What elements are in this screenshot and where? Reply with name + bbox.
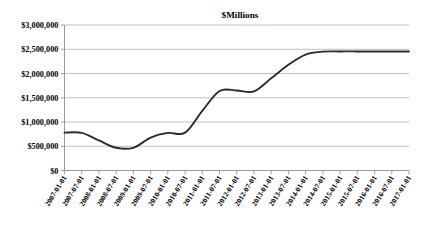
x-axis-tick-labels: 2007-01-012007-07-012008-01-012008-07-01… (43, 174, 414, 208)
chart-title: $Millions (222, 10, 259, 20)
y-axis-tick-label: $2,000,000 (21, 70, 58, 79)
y-axis-tick-label: $2,500,000 (21, 45, 58, 54)
gridlines (61, 25, 409, 171)
data-series-line (65, 51, 410, 148)
x-axis-tick-marks (65, 171, 410, 175)
y-axis-tick-labels: $0$500,000$1,000,000$1,500,000$2,000,000… (21, 21, 58, 176)
y-axis-tick-label: $3,000,000 (21, 21, 58, 30)
line-chart: $Millions $0$500,000$1,000,000$1,500,000… (0, 0, 443, 227)
chart-container: $Millions $0$500,000$1,000,000$1,500,000… (0, 0, 443, 227)
y-axis-tick-label: $500,000 (27, 142, 58, 151)
chart-title-group: $Millions (222, 10, 259, 20)
y-axis-tick-label: $1,000,000 (21, 118, 58, 127)
y-axis-tick-label: $0 (50, 167, 58, 176)
y-axis-tick-label: $1,500,000 (21, 94, 58, 103)
